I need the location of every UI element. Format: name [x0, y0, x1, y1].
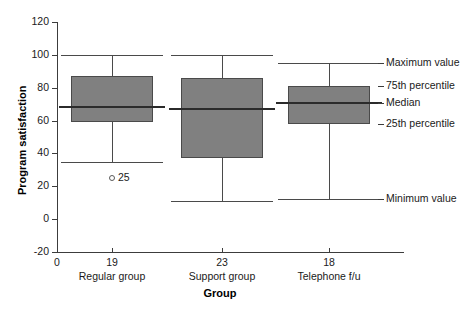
upper-whisker-line — [112, 55, 113, 76]
outlier-marker — [109, 175, 115, 181]
maximum-whisker-cap — [61, 55, 163, 56]
x-tick-count-label: 19 — [72, 256, 152, 268]
median-line — [59, 106, 165, 108]
minimum-whisker-cap — [61, 162, 163, 163]
y-tick-label: 20 — [5, 179, 49, 191]
y-tick-mark — [52, 153, 57, 154]
x-tick-category-label: Regular group — [57, 270, 167, 282]
annotation-leader-dash — [378, 103, 384, 104]
y-tick-mark — [52, 219, 57, 220]
y-tick-label: 120 — [5, 15, 49, 27]
maximum-whisker-cap — [278, 63, 380, 64]
box-body — [181, 78, 263, 159]
lower-whisker-line — [329, 124, 330, 200]
x-tick-category-label: Telephone f/u — [274, 270, 384, 282]
box-body — [288, 86, 370, 124]
x-tick-mark — [222, 248, 223, 253]
x-axis-line — [57, 252, 404, 253]
annotation-label: Median — [386, 96, 420, 108]
annotation-leader-dash — [378, 63, 384, 64]
minimum-whisker-cap — [171, 201, 273, 202]
x-tick-category-label: Support group — [167, 270, 277, 282]
x-tick-count-label: 23 — [182, 256, 262, 268]
y-axis-line — [57, 22, 58, 253]
x-axis-title: Group — [0, 287, 452, 299]
annotation-leader-dash — [378, 86, 384, 87]
median-line — [169, 108, 275, 110]
x-tick-count-label: 18 — [289, 256, 369, 268]
y-tick-label: 80 — [5, 81, 49, 93]
y-tick-label: 40 — [5, 146, 49, 158]
lower-whisker-line — [112, 122, 113, 161]
lower-whisker-line — [222, 158, 223, 201]
y-tick-label: 100 — [5, 48, 49, 60]
annotation-leader-dash — [378, 124, 384, 125]
box-plot-chart: Program satisfaction 120100806040200-20 … — [0, 0, 464, 317]
x-tick-mark — [329, 248, 330, 253]
y-tick-label: 60 — [5, 114, 49, 126]
maximum-whisker-cap — [171, 55, 273, 56]
upper-whisker-line — [329, 63, 330, 86]
y-tick-label: 0 — [5, 212, 49, 224]
annotation-label: Maximum value — [386, 56, 460, 68]
box-body — [71, 76, 153, 122]
annotation-leader-dash — [378, 199, 384, 200]
y-tick-mark — [52, 22, 57, 23]
y-tick-mark — [52, 252, 57, 253]
median-line — [276, 102, 382, 104]
annotation-label: 25th percentile — [386, 117, 455, 129]
y-tick-mark — [52, 121, 57, 122]
annotation-label: Minimum value — [386, 192, 457, 204]
y-tick-mark — [52, 55, 57, 56]
upper-whisker-line — [222, 55, 223, 78]
y-tick-mark — [52, 186, 57, 187]
y-tick-mark — [52, 88, 57, 89]
annotation-label: 75th percentile — [386, 79, 455, 91]
x-axis-origin-label: 0 — [37, 256, 77, 268]
outlier-label: 25 — [118, 171, 130, 183]
minimum-whisker-cap — [278, 199, 380, 200]
x-tick-mark — [112, 248, 113, 253]
